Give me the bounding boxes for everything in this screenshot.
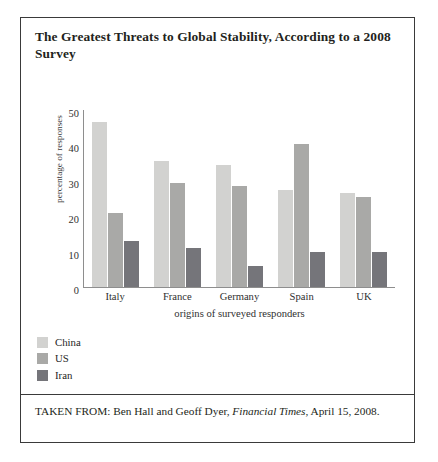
- legend-label: US: [55, 353, 69, 364]
- y-axis-tick-label: 50: [57, 108, 79, 119]
- legend-swatch-icon: [37, 337, 48, 348]
- bar-group: [92, 110, 139, 287]
- bar-iran-italy: [124, 241, 139, 287]
- bar-china-uk: [340, 193, 355, 287]
- legend-label: Iran: [55, 370, 72, 381]
- legend-item-iran: Iran: [37, 367, 237, 383]
- source-note: TAKEN FROM: Ben Hall and Geoff Dyer, Fin…: [35, 404, 397, 420]
- figure-title: The Greatest Threats to Global Stability…: [35, 28, 393, 62]
- figure-container: The Greatest Threats to Global Stability…: [20, 17, 415, 443]
- source-publication: Financial Times: [232, 405, 305, 417]
- chart-plot-area: percentage of responses 01020304050 Ital…: [35, 80, 403, 320]
- y-axis-tick-label: 10: [57, 249, 79, 260]
- bar-us-spain: [294, 144, 309, 287]
- bar-china-france: [154, 161, 169, 287]
- source-suffix: , April 15, 2008.: [305, 405, 379, 417]
- x-axis-tick-label: Germany: [220, 291, 259, 302]
- x-axis-line: [83, 287, 395, 288]
- bar-us-italy: [108, 213, 123, 287]
- bar-us-uk: [356, 197, 371, 287]
- bar-iran-france: [186, 248, 201, 287]
- chart-legend: ChinaUSIran: [37, 334, 237, 384]
- bar-iran-spain: [310, 252, 325, 287]
- bar-china-germany: [216, 165, 231, 287]
- bar-group: [154, 110, 201, 287]
- bar-us-france: [170, 183, 185, 287]
- legend-item-china: China: [37, 334, 237, 350]
- x-axis-tick-label: UK: [356, 291, 371, 302]
- bar-iran-uk: [372, 252, 387, 287]
- x-axis-tick-label: Spain: [290, 291, 314, 302]
- y-axis-tick-labels: 01020304050: [57, 113, 79, 285]
- legend-swatch-icon: [37, 353, 48, 364]
- legend-item-us: US: [37, 351, 237, 367]
- bar-group: [278, 110, 325, 287]
- source-divider: [21, 394, 414, 395]
- y-axis-tick-label: 30: [57, 178, 79, 189]
- bar-us-germany: [232, 186, 247, 287]
- source-prefix: TAKEN FROM: Ben Hall and Geoff Dyer,: [35, 405, 230, 417]
- bar-china-italy: [92, 122, 107, 287]
- y-axis-tick-label: 40: [57, 143, 79, 154]
- bar-iran-germany: [248, 266, 263, 287]
- x-axis-tick-label: France: [163, 291, 192, 302]
- bar-group: [216, 110, 263, 287]
- legend-label: China: [55, 337, 81, 348]
- x-axis-tick-labels: ItalyFranceGermanySpainUK: [84, 291, 395, 307]
- y-axis-tick-label: 20: [57, 214, 79, 225]
- x-axis-title: origins of surveyed responders: [84, 308, 395, 319]
- y-axis-tick-label: 0: [57, 285, 79, 296]
- bar-china-spain: [278, 190, 293, 287]
- legend-swatch-icon: [37, 370, 48, 381]
- bar-group: [340, 110, 387, 287]
- x-axis-tick-label: Italy: [105, 291, 124, 302]
- bar-series-layer: [84, 110, 395, 287]
